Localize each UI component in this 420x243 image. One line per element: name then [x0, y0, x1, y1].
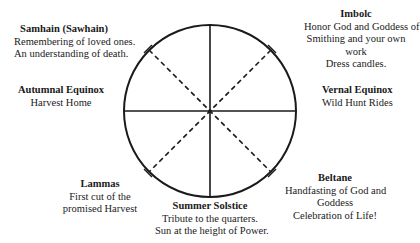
vernal-equinox-line-1: Wild Hunt Rides	[322, 97, 412, 110]
lammas-title: Lammas	[60, 178, 140, 191]
vernal-equinox-title: Vernal Equinox	[322, 84, 412, 97]
beltane-line-3: Celebration of Life!	[285, 210, 385, 223]
autumnal-equinox-line-1: Harvest Home	[16, 97, 106, 110]
imbolc-line-4: Dress candles.	[304, 58, 408, 71]
beltane-title: Beltane	[285, 172, 385, 185]
lammas-line-2: promised Harvest	[60, 203, 140, 216]
autumnal-equinox-title: Autumnal Equinox	[16, 84, 106, 97]
lammas-line-1: First cut of the	[60, 191, 140, 204]
imbolc-title: Imbolc	[304, 8, 408, 21]
lammas-label: Lammas First cut of the promised Harvest	[60, 178, 140, 216]
samhain-line-1: Remembering of loved ones.	[14, 36, 114, 49]
vernal-equinox-label: Vernal Equinox Wild Hunt Rides	[322, 84, 412, 109]
samhain-line-2: An understanding of death.	[14, 48, 114, 61]
samhain-title: Samhain (Sawhain)	[14, 23, 114, 36]
summer-solstice-title: Summer Solstice	[155, 200, 265, 213]
center-point	[208, 109, 212, 113]
autumnal-equinox-label: Autumnal Equinox Harvest Home	[16, 84, 106, 109]
imbolc-line-2: Smithing and your own	[304, 33, 408, 46]
beltane-line-1: Handfasting of God and	[285, 185, 385, 198]
beltane-label: Beltane Handfasting of God and Goddess C…	[285, 172, 385, 222]
summer-solstice-line-2: Sun at the height of Power.	[155, 225, 265, 238]
summer-solstice-line-1: Tribute to the quarters.	[155, 213, 265, 226]
imbolc-line-1: Honor God and Goddess of	[304, 21, 408, 34]
beltane-line-2: Goddess	[285, 197, 385, 210]
summer-solstice-label: Summer Solstice Tribute to the quarters.…	[155, 200, 265, 238]
samhain-label: Samhain (Sawhain) Remembering of loved o…	[14, 23, 114, 61]
imbolc-label: Imbolc Honor God and Goddess of Smithing…	[304, 8, 408, 71]
imbolc-line-3: work	[304, 46, 408, 59]
